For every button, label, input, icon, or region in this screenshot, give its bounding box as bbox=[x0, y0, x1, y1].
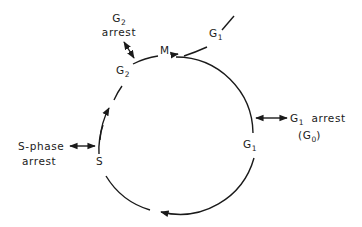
cycle-arc-s-upper bbox=[100, 108, 109, 140]
g2-arrest-main: G bbox=[112, 12, 121, 24]
g1-arrest-sub: 1 bbox=[299, 118, 304, 127]
g1-arrest-main: G bbox=[290, 112, 299, 124]
phase-g1-label: G1 bbox=[243, 138, 257, 152]
s-arrest-line2: arrest bbox=[18, 155, 64, 167]
m-arrow bbox=[171, 54, 178, 55]
g1-arrest-label: G1 arrest (G0) bbox=[290, 112, 346, 143]
g2-arrest-arrow bbox=[124, 42, 134, 58]
phase-g2-label: G2 bbox=[116, 64, 130, 78]
exit-line-to-g1 bbox=[184, 47, 207, 56]
g2-sub: 2 bbox=[125, 70, 130, 79]
cycle-arc-g1-to-bottom bbox=[161, 158, 254, 214]
g1-main: G bbox=[243, 138, 252, 150]
s-arrest-line1: S-phase bbox=[18, 140, 64, 152]
exit-line-beyond-g1 bbox=[222, 16, 234, 30]
g1-exit-main: G bbox=[209, 27, 218, 39]
g1-arrest-word: arrest bbox=[311, 112, 345, 124]
g0-open: (G bbox=[298, 129, 311, 141]
phase-g1-exit-label: G1 bbox=[209, 27, 223, 41]
g2-arrest-sub: 2 bbox=[121, 18, 126, 27]
g2-main: G bbox=[116, 64, 125, 76]
g2-arrest-label: G2 arrest bbox=[97, 12, 141, 38]
g0-sub: 0 bbox=[311, 135, 316, 144]
g1-exit-sub: 1 bbox=[218, 33, 223, 42]
phase-s-label: S bbox=[96, 155, 103, 167]
s-arrest-label: S-phase arrest bbox=[18, 140, 64, 167]
phase-m-label: M bbox=[160, 44, 170, 56]
g1-sub: 1 bbox=[252, 144, 257, 153]
cycle-arc-bottom-to-s bbox=[106, 176, 150, 210]
g0-close: ) bbox=[316, 129, 321, 141]
cycle-arc-m-to-g1 bbox=[176, 57, 253, 133]
cycle-arc-to-g2 bbox=[114, 86, 122, 100]
cycle-arc-g2-to-m bbox=[133, 56, 158, 64]
g2-arrest-word: arrest bbox=[97, 26, 141, 38]
